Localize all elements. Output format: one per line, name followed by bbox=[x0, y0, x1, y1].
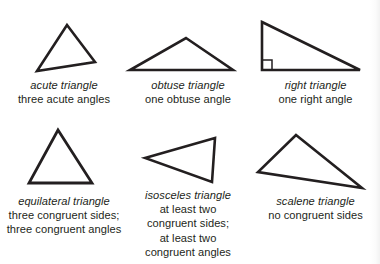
label-acute-name: acute triangle bbox=[0, 78, 128, 92]
label-isosceles-desc-4: congruent angles bbox=[124, 245, 252, 259]
label-equilateral-name: equilateral triangle bbox=[0, 194, 128, 208]
caption-equilateral: equilateral triangle three congruent sid… bbox=[0, 194, 128, 237]
label-isosceles-desc-1: at least two bbox=[124, 202, 252, 216]
label-isosceles-desc-2: congruent sides; bbox=[124, 216, 252, 230]
label-obtuse-name: obtuse triangle bbox=[124, 78, 252, 92]
label-equilateral-desc-1: three congruent sides; bbox=[0, 208, 128, 222]
acute-triangle-shape bbox=[0, 0, 128, 80]
caption-scalene: scalene triangle no congruent sides bbox=[251, 194, 380, 222]
panel-isosceles-triangle: isosceles triangle at least two congruen… bbox=[124, 120, 252, 264]
panel-obtuse-triangle: obtuse triangle one obtuse angle bbox=[124, 0, 252, 120]
label-right-desc-1: one right angle bbox=[251, 92, 380, 106]
label-right-name: right triangle bbox=[251, 78, 380, 92]
label-acute-desc-1: three acute angles bbox=[0, 92, 128, 106]
label-isosceles-desc-3: at least two bbox=[124, 231, 252, 245]
right-triangle-shape bbox=[251, 0, 380, 80]
label-equilateral-desc-2: three congruent angles bbox=[0, 222, 128, 236]
isosceles-triangle-shape bbox=[124, 120, 252, 190]
caption-right: right triangle one right angle bbox=[251, 78, 380, 106]
label-isosceles-name: isosceles triangle bbox=[124, 188, 252, 202]
panel-right-triangle: right triangle one right angle bbox=[251, 0, 380, 120]
caption-isosceles: isosceles triangle at least two congruen… bbox=[124, 188, 252, 259]
obtuse-triangle-shape bbox=[124, 0, 252, 80]
label-scalene-name: scalene triangle bbox=[251, 194, 380, 208]
equilateral-triangle-shape bbox=[0, 120, 128, 194]
panel-acute-triangle: acute triangle three acute angles bbox=[0, 0, 128, 120]
label-obtuse-desc-1: one obtuse angle bbox=[124, 92, 252, 106]
panel-equilateral-triangle: equilateral triangle three congruent sid… bbox=[0, 120, 128, 264]
panel-scalene-triangle: scalene triangle no congruent sides bbox=[251, 120, 380, 264]
caption-obtuse: obtuse triangle one obtuse angle bbox=[124, 78, 252, 106]
label-scalene-desc-1: no congruent sides bbox=[251, 208, 380, 222]
triangle-types-figure: acute triangle three acute angles obtuse… bbox=[0, 0, 380, 264]
scalene-triangle-shape bbox=[251, 120, 380, 194]
caption-acute: acute triangle three acute angles bbox=[0, 78, 128, 106]
